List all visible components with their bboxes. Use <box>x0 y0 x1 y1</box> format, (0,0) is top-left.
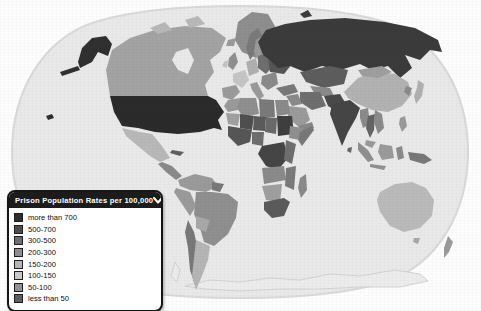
legend-swatch <box>14 294 23 303</box>
region-chad <box>265 117 277 134</box>
legend-item: 200-300 <box>14 247 155 259</box>
legend-item-label: less than 50 <box>28 294 69 303</box>
legend-swatch <box>14 248 23 257</box>
legend-item-label: 300-500 <box>28 236 56 245</box>
legend-item: 50-100 <box>14 282 155 294</box>
legend-header[interactable]: Prison Population Rates per 100,000 <box>9 192 161 208</box>
chevron-down-icon[interactable] <box>153 197 163 204</box>
legend-item-label: 500-700 <box>28 225 56 234</box>
legend-swatch <box>14 260 23 269</box>
legend-body: more than 700 500-700 300-500 200-300 15… <box>9 208 161 310</box>
region-new-zealand <box>444 236 453 258</box>
world-prison-map-screen: Prison Population Rates per 100,000 more… <box>0 0 481 311</box>
legend-item: 300-500 <box>14 235 155 247</box>
legend-item: more than 700 <box>14 212 155 224</box>
legend-item-label: 200-300 <box>28 248 56 257</box>
legend-item-label: more than 700 <box>28 213 77 222</box>
legend-item-label: 150-200 <box>28 260 56 269</box>
legend-item: 100-150 <box>14 270 155 282</box>
legend-swatch <box>14 213 23 222</box>
region-mali <box>240 114 254 130</box>
region-nigeria <box>252 132 264 146</box>
legend-swatch <box>14 236 23 245</box>
region-libya <box>259 99 275 117</box>
legend-swatch <box>14 271 23 280</box>
legend-swatch <box>14 283 23 292</box>
legend-swatch <box>14 225 23 234</box>
legend-panel: Prison Population Rates per 100,000 more… <box>7 190 163 311</box>
legend-item-label: 100-150 <box>28 271 56 280</box>
legend-item: 500-700 <box>14 224 155 236</box>
legend-title: Prison Population Rates per 100,000 <box>15 196 153 205</box>
legend-item: less than 50 <box>14 293 155 305</box>
region-egypt <box>275 100 290 116</box>
region-niger <box>253 116 266 131</box>
legend-item: 150-200 <box>14 258 155 270</box>
legend-item-label: 50-100 <box>28 283 52 292</box>
